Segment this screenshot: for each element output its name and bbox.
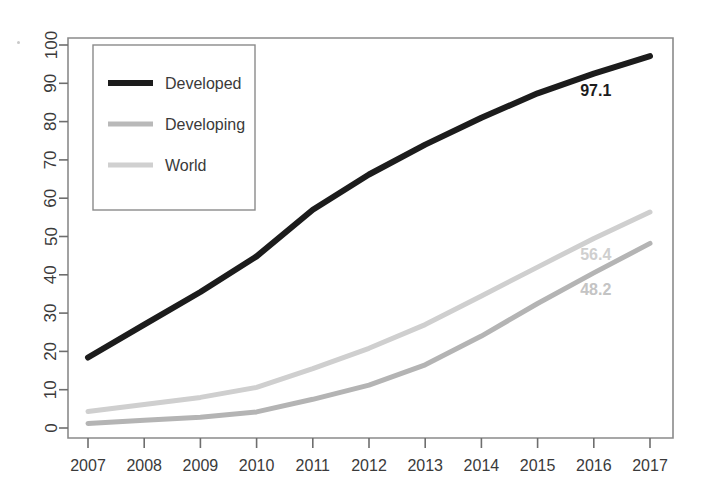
y-axis-tick-label: 60 xyxy=(42,189,61,208)
x-axis-tick-label: 2010 xyxy=(239,457,275,474)
x-axis-tick-label: 2015 xyxy=(520,457,556,474)
x-axis-tick-label: 2016 xyxy=(576,457,612,474)
x-axis-tick-label: 2013 xyxy=(407,457,443,474)
legend-label-developing: Developing xyxy=(165,116,245,133)
y-axis-tick-label: 50 xyxy=(42,227,61,246)
chart-figure: 0102030405060708090100 20072008200920102… xyxy=(0,0,701,504)
y-axis-tick-label: 70 xyxy=(42,150,61,169)
y-axis-tick-label: 90 xyxy=(42,74,61,93)
legend: DevelopedDevelopingWorld xyxy=(93,45,255,210)
y-axis-tick-label: 10 xyxy=(42,380,61,399)
y-axis-tick-label: 40 xyxy=(42,265,61,284)
x-axis-tick-label: 2008 xyxy=(126,457,162,474)
x-axis-tick-label: 2012 xyxy=(351,457,387,474)
data-label-world: 56.4 xyxy=(580,246,611,263)
scan-artifact-speck xyxy=(17,41,20,44)
x-axis-tick-label: 2007 xyxy=(70,457,106,474)
y-axis-tick-label: 80 xyxy=(42,112,61,131)
x-axis-tick-label: 2011 xyxy=(296,457,331,474)
legend-label-world: World xyxy=(165,157,207,174)
y-axis-tick-label: 30 xyxy=(42,304,61,323)
x-axis-tick-labels: 2007200820092010201120122013201420152016… xyxy=(70,457,668,474)
data-label-developed: 97.1 xyxy=(580,82,611,99)
line-chart-canvas: 0102030405060708090100 20072008200920102… xyxy=(0,0,701,504)
legend-label-developed: Developed xyxy=(165,75,242,92)
data-label-developing: 48.2 xyxy=(580,281,611,298)
y-axis-tick-label: 20 xyxy=(42,342,61,361)
y-axis-tick-label: 100 xyxy=(42,31,61,59)
x-axis-tick-label: 2009 xyxy=(183,457,219,474)
y-axis-tick-label: 0 xyxy=(42,423,61,432)
x-axis-tick-label: 2017 xyxy=(632,457,668,474)
x-axis-tick-label: 2014 xyxy=(464,457,500,474)
